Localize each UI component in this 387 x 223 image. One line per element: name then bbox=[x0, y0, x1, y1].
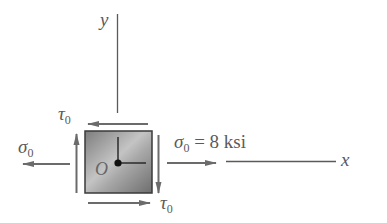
sigma-symbol: σ bbox=[174, 131, 183, 152]
sigma-subscript: 0 bbox=[27, 146, 33, 160]
tau-symbol: τ bbox=[58, 103, 65, 124]
y-axis-label: y bbox=[100, 10, 108, 29]
tau-symbol: τ bbox=[160, 192, 167, 213]
sigma-symbol: σ bbox=[18, 136, 27, 157]
sigma-left-label: σ0 bbox=[18, 137, 33, 159]
tau-subscript: 0 bbox=[167, 202, 173, 216]
origin-label: O bbox=[95, 160, 108, 178]
tau-bottom-label: τ0 bbox=[160, 193, 173, 215]
x-axis-label: x bbox=[341, 150, 349, 169]
sigma-value: = 8 ksi bbox=[189, 131, 246, 152]
sigma-right-label: σ0 = 8 ksi bbox=[174, 132, 246, 154]
tau-top-label: τ0 bbox=[58, 104, 71, 126]
tau-subscript: 0 bbox=[65, 113, 71, 127]
origin-dot bbox=[114, 159, 121, 166]
